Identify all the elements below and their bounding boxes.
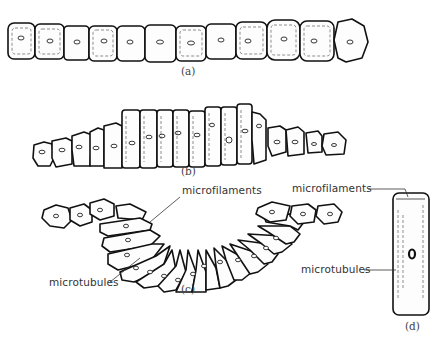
panel-a-cells bbox=[8, 19, 368, 62]
panel-label-d: (d) bbox=[405, 320, 420, 332]
label-c-microtubules: microtubules bbox=[49, 276, 119, 288]
label-c-microfilaments: microfilaments bbox=[182, 184, 262, 196]
c-microfilaments-leader bbox=[150, 197, 180, 222]
label-d-microfilaments: microfilaments bbox=[292, 182, 372, 194]
panel-label-c: (c) bbox=[181, 283, 195, 295]
panel-label-b: (b) bbox=[181, 165, 196, 177]
panel-d-cell bbox=[393, 193, 429, 315]
panel-b-cells bbox=[33, 104, 346, 168]
label-d-microtubules: microtubules bbox=[301, 263, 371, 275]
epithelium-diagram bbox=[0, 0, 448, 344]
panel-label-a: (a) bbox=[181, 65, 195, 77]
